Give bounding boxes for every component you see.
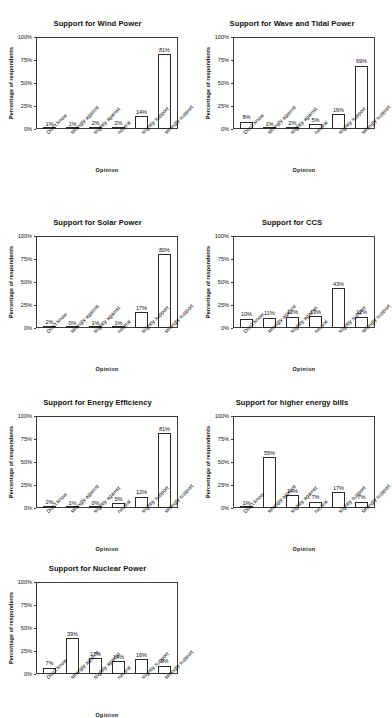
chart-panel: Support for CCSPercentage of respondents… <box>195 205 389 390</box>
bar-slot: 10% <box>240 236 253 328</box>
bar-slot: 17% <box>135 236 148 328</box>
y-axis-tick-label: 0% <box>24 505 34 511</box>
chart-panel: Support for Wind PowerPercentage of resp… <box>0 0 195 205</box>
y-axis-tick-label: 0% <box>24 671 34 677</box>
bar-value-label: 14% <box>125 109 159 115</box>
chart-panel: Support for Nuclear PowerPercentage of r… <box>0 560 195 691</box>
x-axis-title: Opinion <box>36 712 178 718</box>
y-axis-tick-label: 75% <box>218 256 231 262</box>
bar-slot: 1% <box>43 37 56 129</box>
bar-value-label: 39% <box>56 631 90 637</box>
bar-value-label: 55% <box>253 450 287 456</box>
bar-value-label: 69% <box>345 58 379 64</box>
y-axis-tick-label: 0% <box>221 505 231 511</box>
bar-value-label: 81% <box>148 426 182 432</box>
y-axis-tick-label: 25% <box>21 648 34 654</box>
x-axis-title: Opinion <box>36 546 178 552</box>
bar-slot: 16% <box>332 37 345 129</box>
x-axis-title: Opinion <box>233 366 375 372</box>
x-axis-title: Opinion <box>233 546 375 552</box>
y-axis-tick-label: 75% <box>21 57 34 63</box>
y-axis-title-text: Percentage of respondents <box>8 592 14 664</box>
x-axis-category-labels: Don't knowstrongly againstslightly again… <box>36 674 178 710</box>
x-axis-title: Opinion <box>36 366 178 372</box>
y-axis-tick-label: 50% <box>21 279 34 285</box>
x-axis-category-labels: Don't knowstrongly againstslightly again… <box>233 129 375 165</box>
bar-value-label: 81% <box>148 47 182 53</box>
y-axis-tick-label: 0% <box>221 126 231 132</box>
y-axis-tick-label: 25% <box>21 302 34 308</box>
bar-value-label: 16% <box>125 652 159 658</box>
y-axis-tick-label: 0% <box>24 325 34 331</box>
bar-value-label: 12% <box>125 489 159 495</box>
x-axis-category-labels: Don't knowstrongly againstslightly again… <box>233 508 375 544</box>
y-axis-tick-label: 100% <box>215 34 231 40</box>
y-axis-title: Percentage of respondents <box>203 416 212 508</box>
y-axis-tick-label: 100% <box>18 233 34 239</box>
y-axis-title: Percentage of respondents <box>6 582 15 674</box>
y-axis-tick-label: 50% <box>218 279 231 285</box>
y-axis-title-text: Percentage of respondents <box>8 246 14 318</box>
x-axis-category-labels: Don't knowstrongly againstslightly again… <box>36 508 178 544</box>
y-axis-title: Percentage of respondents <box>6 416 15 508</box>
bar-value-label: 80% <box>148 247 182 253</box>
bar-slot: 7% <box>43 582 56 674</box>
bar-value-label: 17% <box>125 305 159 311</box>
x-axis-title: Opinion <box>233 167 375 173</box>
bar-value-label: 16% <box>322 107 356 113</box>
y-axis-tick-label: 75% <box>21 602 34 608</box>
y-axis-tick-label: 25% <box>21 482 34 488</box>
y-axis-tick-label: 50% <box>21 459 34 465</box>
y-axis-title-text: Percentage of respondents <box>8 47 14 119</box>
chart-title: Support for Solar Power <box>0 218 195 227</box>
y-axis-tick-label: 75% <box>218 57 231 63</box>
chart-title: Support for Nuclear Power <box>0 564 195 573</box>
bar-slot: 2% <box>43 416 56 508</box>
bar-value-label: 17% <box>322 485 356 491</box>
bar-slot: 14% <box>135 37 148 129</box>
y-axis-title-text: Percentage of respondents <box>205 426 211 498</box>
y-axis-tick-label: 75% <box>218 436 231 442</box>
y-axis-title-text: Percentage of respondents <box>8 426 14 498</box>
y-axis-tick-label: 100% <box>18 34 34 40</box>
y-axis-tick-label: 100% <box>18 413 34 419</box>
y-axis-tick-label: 0% <box>24 126 34 132</box>
y-axis-tick-label: 100% <box>215 233 231 239</box>
empty-grid-cell <box>195 560 389 691</box>
y-axis-tick-label: 75% <box>21 256 34 262</box>
chart-panel: Support for higher energy billsPercentag… <box>195 390 389 560</box>
y-axis-tick-label: 50% <box>21 625 34 631</box>
y-axis-tick-label: 25% <box>218 302 231 308</box>
y-axis-title: Percentage of respondents <box>6 37 15 129</box>
y-axis-tick-label: 0% <box>221 325 231 331</box>
y-axis-tick-label: 50% <box>218 459 231 465</box>
bar-slot: 2% <box>43 236 56 328</box>
bar-value-label: 43% <box>322 281 356 287</box>
chart-title: Support for CCS <box>195 218 389 227</box>
y-axis-tick-label: 50% <box>21 80 34 86</box>
x-axis-category-labels: Don't knowstrongly againstslightly again… <box>36 129 178 165</box>
chart-title: Support for higher energy bills <box>195 398 389 407</box>
bar-slot: 43% <box>332 236 345 328</box>
bar-slot: 16% <box>135 582 148 674</box>
y-axis-tick-label: 100% <box>18 579 34 585</box>
y-axis-title-text: Percentage of respondents <box>205 246 211 318</box>
x-axis-category-labels: Don't knowstrongly againstslightly again… <box>233 328 375 364</box>
bar-slot: 17% <box>332 416 345 508</box>
bar-slot: 1% <box>240 416 253 508</box>
chart-panel: Support for Wave and Tidal PowerPercenta… <box>195 0 389 205</box>
chart-title: Support for Wave and Tidal Power <box>195 19 389 28</box>
y-axis-title-text: Percentage of respondents <box>205 47 211 119</box>
x-axis-title: Opinion <box>36 167 178 173</box>
y-axis-tick-label: 100% <box>215 413 231 419</box>
y-axis-title: Percentage of respondents <box>203 37 212 129</box>
bar-slot: 8% <box>240 37 253 129</box>
y-axis-tick-label: 50% <box>218 80 231 86</box>
chart-panel: Support for Energy EfficiencyPercentage … <box>0 390 195 560</box>
y-axis-tick-label: 25% <box>21 103 34 109</box>
y-axis-tick-label: 25% <box>218 482 231 488</box>
x-axis-category-labels: Don't knowstrongly againstslightly again… <box>36 328 178 364</box>
chart-title: Support for Wind Power <box>0 19 195 28</box>
bar-slot: 12% <box>135 416 148 508</box>
